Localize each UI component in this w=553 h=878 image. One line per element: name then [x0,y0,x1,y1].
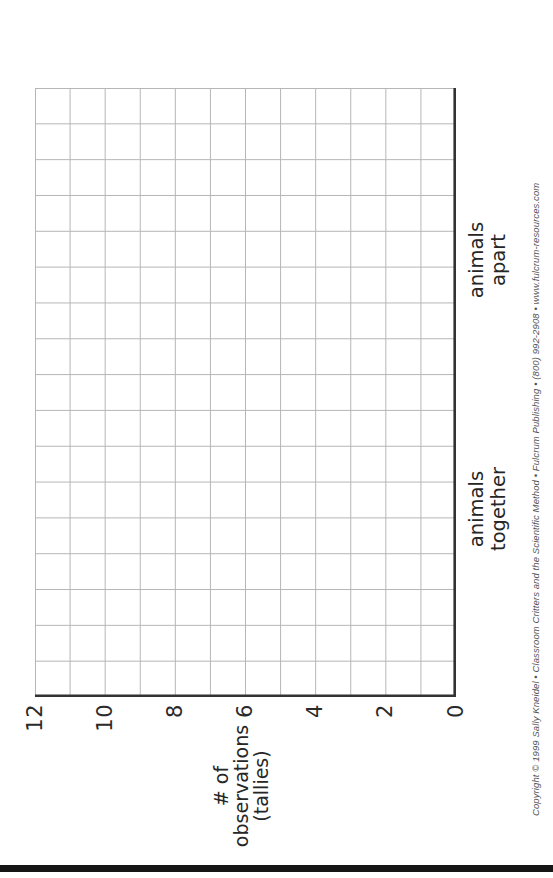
graph-grid-svg [35,88,456,697]
category-label-animals-together: animals together [466,449,510,569]
page-edge-bar [0,865,553,872]
y-axis-title: # of observations (tallies) [211,716,271,856]
ytick-4: 4 [303,704,327,750]
y-axis-title-line-2: observations [231,716,251,856]
category-label-animals-apart: animals apart [466,200,510,320]
y-axis-title-line-1: # of [211,716,231,856]
category-apart-line-1: animals [466,200,488,320]
category-apart-line-2: apart [488,200,510,320]
copyright-line: Copyright © 1999 Sally Kneidel • Classro… [530,183,541,816]
ytick-0: 0 [444,704,468,750]
category-together-line-1: animals [466,449,488,569]
category-together-line-2: together [488,449,510,569]
rotated-worksheet-sheet: 12 10 8 6 4 2 0 # of observations (talli… [0,0,553,878]
graph-grid [35,88,456,697]
ytick-2: 2 [373,704,397,750]
worksheet-page: 12 10 8 6 4 2 0 # of observations (talli… [0,0,553,878]
ytick-12: 12 [23,704,47,750]
ytick-8: 8 [163,704,187,750]
ytick-10: 10 [93,704,117,750]
y-axis-title-line-3: (tallies) [251,716,271,856]
